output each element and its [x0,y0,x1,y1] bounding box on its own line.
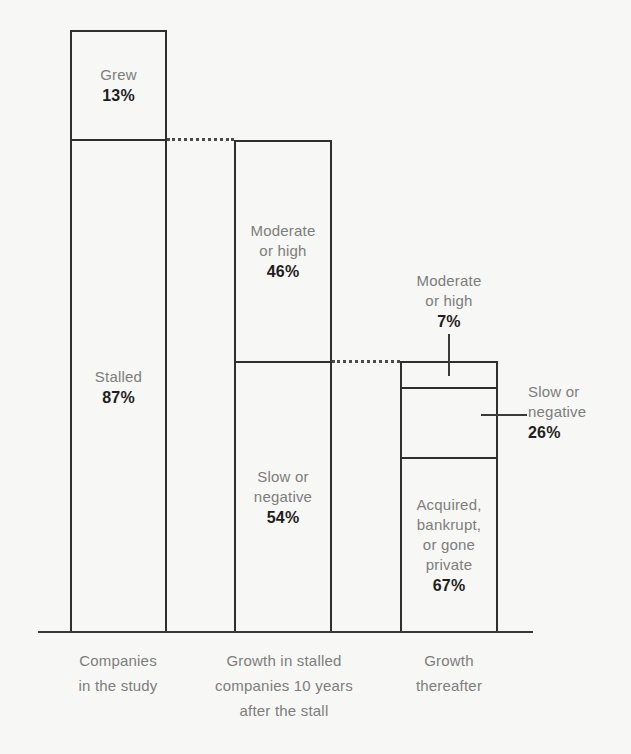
segment-label-moderate-or-high-bar2: Moderate or high [251,221,316,261]
x-axis-label-growth-thereafter: Growth thereafter [390,648,508,698]
leader-line-moderate-or-high-bar3 [448,334,450,376]
bar-segment-slow-or-negative-bar3[interactable] [402,387,496,457]
bar-growth-in-stalled-companies[interactable]: Moderate or high 46% Slow or negative 54… [234,140,332,633]
segment-label-stalled: Stalled [95,367,142,387]
x-axis-label-companies-in-the-study: Companies in the study [52,648,184,698]
bar-segment-grew[interactable]: Grew 13% [72,32,165,139]
segment-value-moderate-or-high-bar2: 46% [267,261,300,282]
segment-value-grew: 13% [102,85,135,106]
segment-label-grew: Grew [100,65,137,85]
bar-segment-moderate-or-high-bar2[interactable]: Moderate or high 46% [236,142,330,361]
segment-label-acquired: Acquired, bankrupt, or gone private [416,495,481,575]
segment-value-acquired: 67% [433,575,466,596]
stacked-bar-chart: Grew 13% Stalled 87% Moderate or high 46… [0,0,631,754]
leader-line-slow-or-negative-bar3 [481,414,527,416]
bar-segment-slow-or-negative-bar2[interactable]: Slow or negative 54% [236,361,330,631]
bar-segment-acquired-bankrupt-or-gone-private[interactable]: Acquired, bankrupt, or gone private 67% [402,457,496,631]
segment-value-slow-or-negative-bar2: 54% [267,507,300,528]
bar-growth-thereafter[interactable]: Acquired, bankrupt, or gone private 67% [400,361,498,633]
callout-moderate-or-high-bar3: Moderate or high 7% [389,271,509,332]
x-axis-line [38,631,533,633]
callout-value-moderate-or-high-bar3: 7% [389,311,509,332]
segment-label-slow-or-negative-bar2: Slow or negative [254,467,312,507]
callout-slow-or-negative-bar3: Slow or negative 26% [528,382,630,443]
callout-label-slow-or-negative-bar3: Slow or negative [528,382,630,422]
callout-label-moderate-or-high-bar3: Moderate or high [389,271,509,311]
callout-value-slow-or-negative-bar3: 26% [528,422,630,443]
x-axis-label-growth-in-stalled-companies: Growth in stalled companies 10 years aft… [198,648,370,723]
connector-bar2-to-bar3 [332,360,400,363]
connector-bar1-to-bar2 [167,138,234,141]
bar-segment-stalled[interactable]: Stalled 87% [72,139,165,633]
segment-value-stalled: 87% [102,387,135,408]
bar-companies-in-the-study[interactable]: Grew 13% Stalled 87% [70,30,167,633]
